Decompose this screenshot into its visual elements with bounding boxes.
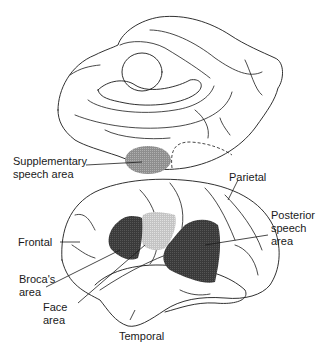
label-supplementary-speech-area: Supplementary speech area — [13, 155, 87, 181]
label-face-area: Face area — [43, 301, 67, 327]
label-parietal: Parietal — [229, 171, 266, 184]
label-temporal: Temporal — [119, 330, 164, 343]
label-posterior-speech-area: Posterior speech area — [271, 209, 315, 248]
lateral-view — [46, 179, 279, 326]
brain-speech-areas-diagram: Supplementary speech area Parietal Poste… — [0, 0, 324, 351]
medial-view — [58, 16, 283, 174]
label-frontal: Frontal — [18, 236, 52, 249]
label-brocas-area: Broca's area — [19, 273, 55, 299]
supplementary-speech-area-region — [125, 146, 171, 174]
